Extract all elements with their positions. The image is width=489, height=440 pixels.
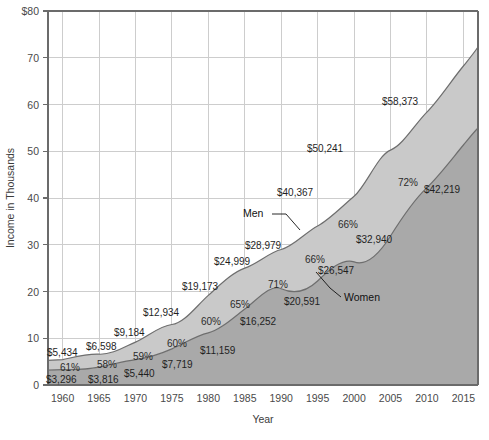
women-label-1990: $20,591	[284, 296, 321, 307]
men-label-1990: $28,979	[245, 240, 282, 251]
x-tick-label-1965: 1965	[87, 392, 111, 404]
ratio-label-1990: 71%	[268, 279, 288, 290]
x-tick-label-2005: 2005	[379, 392, 403, 404]
women-series-label: Women	[344, 291, 380, 303]
men-series-label: Men	[243, 207, 264, 219]
ratio-label-1980: 60%	[201, 316, 221, 327]
x-tick-label-1990: 1990	[270, 392, 294, 404]
women-label-1960: $3,296	[46, 374, 77, 385]
men-label-1970: $9,184	[114, 327, 145, 338]
x-tick-label-1995: 1995	[306, 392, 330, 404]
men-label-1960: $5,434	[47, 347, 78, 358]
men-label-2005: $50,241	[307, 143, 344, 154]
y-axis-title: Income in Thousands	[4, 148, 16, 248]
x-tick-label-2015: 2015	[452, 392, 476, 404]
ratio-label-1960: 61%	[60, 362, 80, 373]
women-label-2000: $26,547	[318, 265, 355, 276]
y-tick-label-30: 30	[27, 239, 39, 251]
x-tick-label-1980: 1980	[197, 392, 221, 404]
x-tick-label-1970: 1970	[124, 392, 148, 404]
men-label-1985: $24,999	[214, 256, 251, 267]
x-tick-label-1960: 1960	[51, 392, 75, 404]
y-tick-label-50: 50	[27, 145, 39, 157]
y-tick-label-40: 40	[27, 192, 39, 204]
women-label-1970: $5,440	[124, 368, 155, 379]
x-tick-label-1975: 1975	[160, 392, 184, 404]
men-label-1975: $12,934	[143, 307, 180, 318]
y-tick-label-80: $80	[21, 5, 39, 17]
chart-svg: $80 70 60 50 40 30 20 10 0 1960 1965 197…	[0, 0, 489, 440]
ratio-label-2010: 72%	[398, 177, 418, 188]
women-label-1985: $16,252	[240, 316, 277, 327]
y-tick-label-10: 10	[27, 332, 39, 344]
women-label-2005: $32,940	[356, 234, 393, 245]
men-label-1965: $6,598	[86, 341, 117, 352]
x-tick-label-2010: 2010	[415, 392, 439, 404]
y-tick-label-70: 70	[27, 52, 39, 64]
y-tick-label-0: 0	[33, 379, 39, 391]
women-label-2010: $42,219	[424, 184, 461, 195]
y-tick-label-20: 20	[27, 286, 39, 298]
women-label-1975: $7,719	[162, 359, 193, 370]
men-label-2010: $58,373	[382, 96, 419, 107]
women-label-1980: $11,159	[200, 345, 236, 356]
ratio-label-2000: 66%	[338, 219, 358, 230]
ratio-label-1970: 59%	[133, 351, 153, 362]
ratio-label-1995: 66%	[305, 254, 325, 265]
ratio-label-1965: 58%	[97, 359, 117, 370]
x-axis-title: Year	[252, 413, 274, 425]
income-by-gender-area-chart: $80 70 60 50 40 30 20 10 0 1960 1965 197…	[0, 0, 489, 440]
men-label-2000: $40,367	[277, 187, 314, 198]
ratio-label-1975: 60%	[167, 338, 187, 349]
ratio-label-1985: 65%	[230, 299, 250, 310]
y-tick-label-60: 60	[27, 99, 39, 111]
men-label-1980: $19,173	[182, 281, 219, 292]
x-tick-label-2000: 2000	[342, 392, 366, 404]
x-tick-label-1985: 1985	[233, 392, 257, 404]
women-label-1965: $3,816	[88, 374, 119, 385]
